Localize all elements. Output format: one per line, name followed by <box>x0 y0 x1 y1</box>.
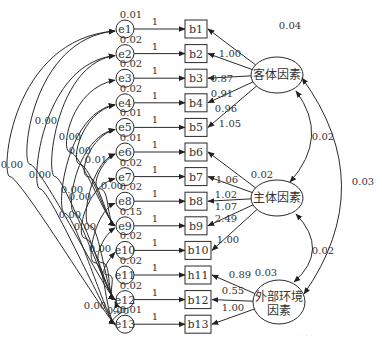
error-path-weight: 1 <box>152 114 158 125</box>
error-covariance-label: 0.00 <box>59 209 81 220</box>
latent-covariance-arc <box>290 91 312 182</box>
latent-variables: 客体因素0.041.000.870.910.961.05主体因素0.021.06… <box>208 20 305 324</box>
watermark-text: · · · <box>300 331 313 340</box>
error-variance-label: 0.02 <box>120 34 142 45</box>
error-covariance-label: 0.00 <box>69 191 91 202</box>
error-variance-label: 0.15 <box>120 206 142 217</box>
error-covariance-arcs: 0.000.000.000.000.000.010.000.000.000.00… <box>1 31 129 324</box>
error-path-weight: 1 <box>152 90 158 101</box>
error-covariance-label: 0.00 <box>89 243 111 254</box>
error-covariance-label: 0.01 <box>85 154 107 165</box>
error-path-weight: 1 <box>152 16 158 27</box>
error-path-weight: 1 <box>152 262 158 273</box>
error-covariance-label: 0.00 <box>35 115 57 126</box>
error-variance-label: 0.01 <box>120 9 142 20</box>
error-covariance-label: 0.00 <box>1 159 23 170</box>
observed-variable-label: b4 <box>189 97 203 110</box>
error-term-label: e13 <box>115 318 136 331</box>
error-covariance-label: 0.00 <box>59 131 81 142</box>
error-variance-label: 0.01 <box>120 132 142 143</box>
loading-arrow <box>212 300 254 302</box>
error-covariance-arc <box>76 105 115 226</box>
sem-diagram: 0.000.000.000.000.000.010.000.000.000.00… <box>0 0 382 343</box>
error-variance-label: 0.02 <box>120 83 142 94</box>
loading-label: 1.00 <box>219 48 241 59</box>
observed-variable-label: b13 <box>187 318 208 331</box>
error-path-weight: 1 <box>152 139 158 150</box>
loading-label: 1.06 <box>216 174 238 185</box>
observed-variable-label: b12 <box>187 294 208 307</box>
latent-covariance-label: 0.02 <box>312 131 334 142</box>
error-path-weight: 1 <box>152 237 158 248</box>
error-variance-label: 0.02 <box>120 230 142 241</box>
loading-label: 0.87 <box>211 73 233 84</box>
error-path-weight: 1 <box>152 311 158 322</box>
loading-label: 0.55 <box>222 285 244 296</box>
latent-variable-label: 主体因素 <box>253 191 301 205</box>
observed-variables: b1b2b3b4b5b6b7b8b9b10h11b12b13 <box>185 20 211 333</box>
latent-covariance-arc <box>302 78 342 294</box>
loading-label: 0.96 <box>215 103 237 114</box>
observed-variable-label: b6 <box>189 146 203 159</box>
observed-variable-label: b2 <box>189 48 203 61</box>
latent-covariance-arc <box>294 214 313 282</box>
observed-variable-label: b1 <box>189 23 203 36</box>
latent-variable-label: 外部环境 <box>255 289 303 304</box>
error-variance-label: 0.02 <box>120 181 142 192</box>
loading-label: 1.05 <box>219 118 241 129</box>
error-covariance-label: 0.00 <box>29 169 51 180</box>
loading-label: 0.89 <box>229 269 251 280</box>
error-variance-label: 0.02 <box>120 280 142 291</box>
observed-variable-label: b3 <box>189 72 203 85</box>
latent-variable-label: 客体因素 <box>253 67 301 82</box>
latent-variable-label: 因素 <box>267 304 291 318</box>
error-variance-label: 0.02 <box>120 157 142 168</box>
error-path-weight: 1 <box>152 41 158 52</box>
observed-variable-label: b9 <box>189 220 203 233</box>
latent-variance-label: 0.02 <box>251 169 273 180</box>
observed-variable-label: b10 <box>187 244 208 257</box>
error-variance-label: 0.02 <box>120 255 142 266</box>
loading-label: 2.49 <box>215 213 237 224</box>
latent-covariance-label: 0.02 <box>312 245 334 256</box>
loading-label: 1.02 <box>215 189 237 200</box>
error-covariance-label: 0.00 <box>74 221 96 232</box>
latent-covariance-label: 0.03 <box>352 176 374 187</box>
observed-variable-label: b5 <box>189 121 203 134</box>
error-path-weight: 1 <box>152 164 158 175</box>
observed-variable-label: b8 <box>189 195 203 208</box>
error-variance-label: 0.01 <box>120 304 142 315</box>
error-variance-label: 0.02 <box>120 58 142 69</box>
loading-label: 1.00 <box>217 234 239 245</box>
error-path-weight: 1 <box>152 287 158 298</box>
observed-variable-label: b7 <box>189 171 203 184</box>
latent-covariances: 0.020.020.03 <box>290 78 374 294</box>
observed-variable-label: h11 <box>187 269 208 282</box>
latent-variance-label: 0.03 <box>255 267 277 278</box>
error-path-weight: 1 <box>152 65 158 76</box>
loading-label: 0.91 <box>211 88 233 99</box>
latent-variance-label: 0.04 <box>279 20 301 31</box>
error-covariance-arc <box>7 31 115 324</box>
error-covariance-label: 0.00 <box>84 300 106 311</box>
error-variance-label: 0.01 <box>120 107 142 118</box>
loading-label: 1.07 <box>215 201 237 212</box>
error-path-weight: 1 <box>152 213 158 224</box>
error-path-weight: 1 <box>152 188 158 199</box>
loading-label: 1.00 <box>222 302 244 313</box>
error-terms: e10.011e20.021e30.021e40.021e50.011e60.0… <box>115 9 185 333</box>
error-covariance-arc <box>84 129 115 225</box>
